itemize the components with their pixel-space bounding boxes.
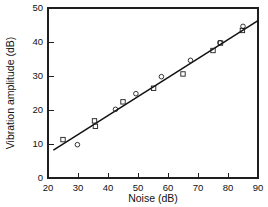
- y-tick-label-10: 10: [32, 138, 43, 149]
- x-tick-label-90: 90: [253, 182, 264, 193]
- y-tick-label-40: 40: [32, 36, 43, 47]
- x-tick-label-70: 70: [193, 182, 204, 193]
- scatter-plot: 2030405060708090 01020304050 Noise (dB) …: [0, 0, 268, 207]
- chart-figure: 2030405060708090 01020304050 Noise (dB) …: [0, 0, 268, 207]
- x-tick-label-80: 80: [223, 182, 234, 193]
- y-tick-label-20: 20: [32, 104, 43, 115]
- x-tick-label-20: 20: [43, 182, 54, 193]
- y-tick-label-30: 30: [32, 70, 43, 81]
- x-axis-title: Noise (dB): [128, 192, 178, 204]
- x-tick-label-30: 30: [73, 182, 84, 193]
- x-tick-label-40: 40: [103, 182, 114, 193]
- y-tick-label-0: 0: [38, 172, 43, 183]
- y-axis-title: Vibration amplitude (dB): [4, 37, 16, 149]
- y-tick-label-50: 50: [32, 2, 43, 13]
